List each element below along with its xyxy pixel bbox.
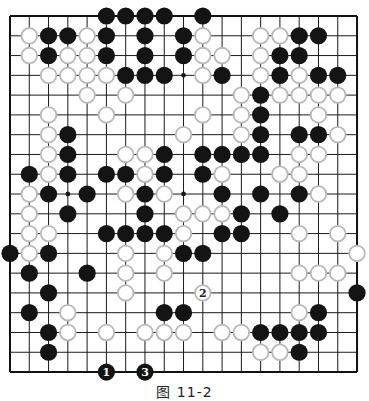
- black-stone[interactable]: [213, 146, 230, 163]
- black-stone[interactable]: [291, 344, 308, 361]
- white-stone[interactable]: [21, 206, 37, 222]
- black-stone[interactable]: [136, 67, 153, 84]
- white-stone[interactable]: [137, 325, 153, 341]
- white-stone[interactable]: [176, 206, 192, 222]
- black-stone[interactable]: [271, 324, 288, 341]
- black-stone[interactable]: [59, 27, 76, 44]
- numbered-move-2[interactable]: 2: [195, 285, 211, 301]
- white-stone[interactable]: [118, 87, 134, 103]
- white-stone[interactable]: [291, 305, 307, 321]
- white-stone[interactable]: [156, 186, 172, 202]
- white-stone[interactable]: [79, 48, 95, 64]
- black-stone[interactable]: [98, 47, 115, 64]
- white-stone[interactable]: [253, 344, 269, 360]
- white-stone[interactable]: [291, 265, 307, 281]
- white-stone[interactable]: [234, 325, 250, 341]
- white-stone[interactable]: [41, 127, 57, 143]
- white-stone[interactable]: [272, 28, 288, 44]
- white-stone[interactable]: [291, 68, 307, 84]
- white-stone[interactable]: [214, 48, 230, 64]
- white-stone[interactable]: [176, 127, 192, 143]
- black-stone[interactable]: [271, 67, 288, 84]
- black-stone[interactable]: [59, 146, 76, 163]
- black-stone[interactable]: [79, 185, 96, 202]
- white-stone[interactable]: [195, 28, 211, 44]
- black-stone[interactable]: [59, 126, 76, 143]
- white-stone[interactable]: [291, 166, 307, 182]
- white-stone[interactable]: [214, 325, 230, 341]
- white-stone[interactable]: [118, 285, 134, 301]
- white-stone[interactable]: [79, 28, 95, 44]
- black-stone[interactable]: [310, 67, 327, 84]
- white-stone[interactable]: [137, 166, 153, 182]
- white-stone[interactable]: [99, 325, 115, 341]
- black-stone[interactable]: [136, 205, 153, 222]
- black-stone[interactable]: [310, 304, 327, 321]
- black-stone[interactable]: [156, 166, 173, 183]
- white-stone[interactable]: [21, 186, 37, 202]
- black-stone[interactable]: [117, 7, 134, 24]
- black-stone[interactable]: [40, 185, 57, 202]
- white-stone[interactable]: [330, 265, 346, 281]
- black-stone[interactable]: [310, 126, 327, 143]
- white-stone[interactable]: [118, 186, 134, 202]
- white-stone[interactable]: [311, 107, 327, 123]
- white-stone[interactable]: [60, 68, 76, 84]
- white-stone[interactable]: [195, 107, 211, 123]
- black-stone[interactable]: [117, 225, 134, 242]
- black-stone[interactable]: [136, 225, 153, 242]
- white-stone[interactable]: [195, 68, 211, 84]
- white-stone[interactable]: [330, 127, 346, 143]
- black-stone[interactable]: [40, 324, 57, 341]
- black-stone[interactable]: [175, 304, 192, 321]
- black-stone[interactable]: [21, 265, 38, 282]
- black-stone[interactable]: [21, 304, 38, 321]
- white-stone[interactable]: [234, 87, 250, 103]
- black-stone[interactable]: [175, 245, 192, 262]
- black-stone[interactable]: [252, 106, 269, 123]
- black-stone[interactable]: [98, 27, 115, 44]
- black-stone[interactable]: [194, 146, 211, 163]
- white-stone[interactable]: [41, 226, 57, 242]
- black-stone[interactable]: [136, 47, 153, 64]
- numbered-move-1[interactable]: 1: [98, 363, 115, 380]
- white-stone[interactable]: [311, 147, 327, 163]
- white-stone[interactable]: [349, 246, 365, 262]
- white-stone[interactable]: [272, 87, 288, 103]
- white-stone[interactable]: [21, 28, 37, 44]
- black-stone[interactable]: [1, 245, 18, 262]
- black-stone[interactable]: [348, 284, 365, 301]
- black-stone[interactable]: [40, 27, 57, 44]
- black-stone[interactable]: [40, 284, 57, 301]
- black-stone[interactable]: [252, 185, 269, 202]
- white-stone[interactable]: [253, 48, 269, 64]
- black-stone[interactable]: [310, 324, 327, 341]
- white-stone[interactable]: [330, 87, 346, 103]
- black-stone[interactable]: [194, 7, 211, 24]
- black-stone[interactable]: [271, 205, 288, 222]
- white-stone[interactable]: [118, 265, 134, 281]
- black-stone[interactable]: [98, 166, 115, 183]
- black-stone[interactable]: [40, 47, 57, 64]
- white-stone[interactable]: [234, 107, 250, 123]
- black-stone[interactable]: [156, 304, 173, 321]
- black-stone[interactable]: [136, 185, 153, 202]
- black-stone[interactable]: [252, 146, 269, 163]
- white-stone[interactable]: [195, 206, 211, 222]
- black-stone[interactable]: [291, 27, 308, 44]
- white-stone[interactable]: [253, 68, 269, 84]
- white-stone[interactable]: [214, 206, 230, 222]
- white-stone[interactable]: [291, 226, 307, 242]
- black-stone[interactable]: [291, 47, 308, 64]
- white-stone[interactable]: [195, 48, 211, 64]
- white-stone[interactable]: [253, 28, 269, 44]
- black-stone[interactable]: [136, 7, 153, 24]
- black-stone[interactable]: [79, 265, 96, 282]
- white-stone[interactable]: [118, 246, 134, 262]
- white-stone[interactable]: [291, 87, 307, 103]
- black-stone[interactable]: [98, 7, 115, 24]
- black-stone[interactable]: [136, 27, 153, 44]
- white-stone[interactable]: [21, 246, 37, 262]
- black-stone[interactable]: [59, 205, 76, 222]
